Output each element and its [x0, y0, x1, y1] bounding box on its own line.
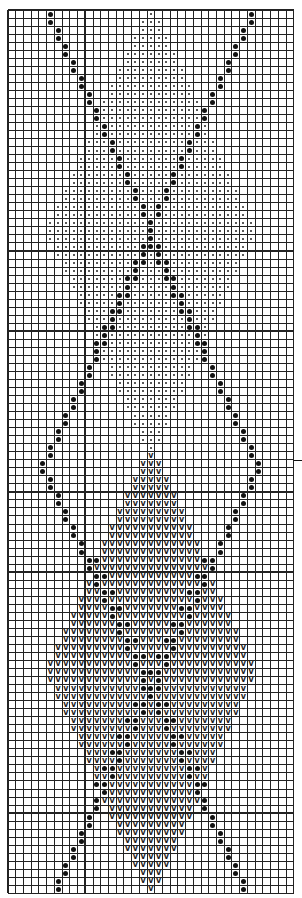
stitch-large-dot [101, 781, 109, 789]
stitch-large-dot [70, 532, 78, 540]
stitch-small-dot [124, 395, 132, 403]
small-dot-icon [165, 133, 167, 135]
large-dot-icon [164, 188, 169, 193]
stitch-small-dot [201, 291, 209, 299]
small-dot-icon [111, 350, 113, 352]
stitch-small-dot [186, 227, 194, 235]
small-dot-icon [127, 326, 129, 328]
stitch-small-dot [170, 243, 178, 251]
stitch-small-dot [193, 106, 201, 114]
small-dot-icon [150, 415, 152, 417]
stitch-small-dot [216, 179, 224, 187]
small-dot-icon [111, 238, 113, 240]
small-dot-icon [165, 222, 167, 224]
small-dot-icon [88, 190, 90, 192]
stitch-small-dot [132, 363, 140, 371]
v-stitch-icon: v [179, 741, 184, 749]
stitch-small-dot [132, 155, 140, 163]
stitch-small-dot [209, 171, 217, 179]
large-dot-icon [133, 276, 138, 281]
small-dot-icon [196, 302, 198, 304]
small-dot-icon [150, 286, 152, 288]
small-dot-icon [127, 270, 129, 272]
small-dot-icon [165, 374, 167, 376]
small-dot-icon [96, 238, 98, 240]
small-dot-icon [173, 310, 175, 312]
stitch-small-dot [116, 211, 124, 219]
stitch-small-dot [124, 387, 132, 395]
small-dot-icon [165, 61, 167, 63]
small-dot-icon [196, 262, 198, 264]
large-dot-icon [179, 606, 184, 611]
large-dot-icon [79, 389, 84, 394]
stitch-large-dot [224, 524, 232, 532]
large-dot-icon [125, 172, 130, 177]
stitch-large-dot [85, 556, 93, 564]
stitch-large-dot [240, 500, 248, 508]
small-dot-icon [103, 101, 105, 103]
stitch-small-dot [132, 147, 140, 155]
stitch-v: v [186, 580, 194, 588]
stitch-small-dot [232, 211, 240, 219]
small-dot-icon [181, 85, 183, 87]
small-dot-icon [127, 310, 129, 312]
small-dot-icon [134, 398, 136, 400]
small-dot-icon [227, 262, 229, 264]
stitch-small-dot [54, 211, 62, 219]
stitch-large-dot [162, 259, 170, 267]
small-dot-icon [119, 125, 121, 127]
stitch-small-dot [77, 267, 85, 275]
small-dot-icon [142, 310, 144, 312]
small-dot-icon [204, 141, 206, 143]
small-dot-icon [158, 406, 160, 408]
stitch-small-dot [108, 211, 116, 219]
small-dot-icon [119, 141, 121, 143]
small-dot-icon [188, 350, 190, 352]
small-dot-icon [142, 423, 144, 425]
small-dot-icon [111, 166, 113, 168]
v-stitch-icon: v [187, 757, 192, 765]
small-dot-icon [119, 230, 121, 232]
large-dot-icon [71, 533, 76, 538]
stitch-large-dot [178, 757, 186, 765]
small-dot-icon [142, 45, 144, 47]
stitch-small-dot [116, 138, 124, 146]
stitch-small-dot [108, 331, 116, 339]
stitch-large-dot [101, 130, 109, 138]
small-dot-icon [150, 37, 152, 39]
stitch-small-dot [124, 187, 132, 195]
stitch-large-dot [139, 676, 147, 684]
stitch-v: v [147, 885, 155, 893]
small-dot-icon [119, 69, 121, 71]
small-dot-icon [158, 29, 160, 31]
small-dot-icon [142, 334, 144, 336]
stitch-small-dot [62, 235, 70, 243]
small-dot-icon [134, 109, 136, 111]
stitch-large-dot [93, 572, 101, 580]
stitch-small-dot [155, 163, 163, 171]
stitch-large-dot [93, 355, 101, 363]
small-dot-icon [134, 358, 136, 360]
large-dot-icon [94, 558, 99, 563]
stitch-v: v [116, 741, 124, 749]
large-dot-icon [94, 574, 99, 579]
stitch-small-dot [116, 122, 124, 130]
stitch-small-dot [147, 58, 155, 66]
large-dot-icon [249, 12, 254, 17]
small-dot-icon [119, 286, 121, 288]
small-dot-icon [96, 294, 98, 296]
small-dot-icon [204, 182, 206, 184]
stitch-large-dot [139, 259, 147, 267]
small-dot-icon [65, 190, 67, 192]
small-dot-icon [134, 174, 136, 176]
stitch-small-dot [155, 339, 163, 347]
small-dot-icon [219, 182, 221, 184]
v-stitch-icon: v [125, 628, 130, 636]
stitch-v: v [186, 757, 194, 765]
small-dot-icon [111, 101, 113, 103]
stitch-small-dot [124, 299, 132, 307]
small-dot-icon [181, 182, 183, 184]
large-dot-icon [40, 469, 45, 474]
stitch-small-dot [108, 339, 116, 347]
large-dot-icon [210, 100, 215, 105]
